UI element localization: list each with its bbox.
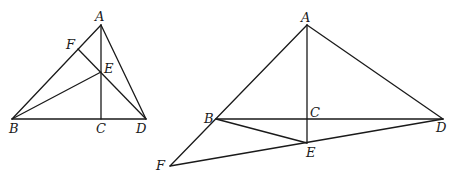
point-label-A: A [300,10,310,25]
point-label-B: B [203,111,214,126]
figure-1-triangle: ABCDEF [8,9,147,136]
point-label-C: C [96,121,106,136]
segment-BE [12,72,101,119]
point-label-D: D [135,121,147,136]
point-label-E: E [103,61,114,76]
segment-BE [216,119,307,143]
geometry-diagram: ABCDEF ABCDEF [0,0,459,176]
point-label-E: E [305,145,316,160]
segment-AB [12,25,101,119]
point-label-D: D [435,120,447,135]
point-label-F: F [155,158,166,173]
point-label-C: C [310,105,320,120]
point-label-B: B [8,121,19,136]
point-label-A: A [94,9,104,24]
segment-FD [78,49,146,119]
point-label-F: F [65,37,76,52]
segment-AF [170,25,307,166]
figure-2-triangle: ABCDEF [155,10,447,173]
segment-AD [307,25,443,119]
